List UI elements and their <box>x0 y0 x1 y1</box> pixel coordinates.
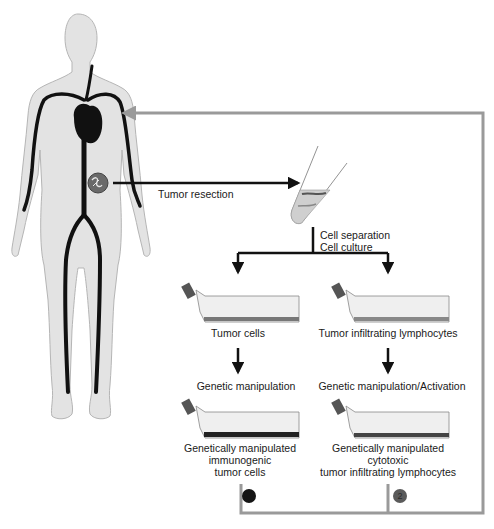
cell-separation-label: Cell separation <box>320 229 390 241</box>
right-result-line1: Genetically manipulated <box>332 442 444 454</box>
til-label: Tumor infiltrating lymphocytes <box>318 327 457 339</box>
right-result-line3: tumor infiltrating lymphocytes <box>320 466 456 478</box>
step-badge-2: 2 <box>393 489 407 503</box>
tumor-resection-label: Tumor resection <box>158 188 233 200</box>
genetic-manipulation-activation-label: Genetic manipulation/Activation <box>318 380 465 392</box>
right-result-line2: cytotoxic <box>368 454 409 466</box>
left-result-line3: tumor cells <box>215 466 266 478</box>
cell-culture-label: Cell culture <box>320 241 373 253</box>
culture-flask-icon <box>331 282 449 322</box>
test-tube-icon <box>291 146 347 224</box>
culture-flask-icon <box>331 398 449 438</box>
tumor-icon <box>88 173 108 193</box>
genetic-manipulation-label: Genetic manipulation <box>197 380 296 392</box>
left-result-line2: immunogenic <box>209 454 271 466</box>
culture-flask-icon <box>181 398 299 438</box>
tumor-cells-label: Tumor cells <box>211 327 265 339</box>
culture-flask-icon <box>181 282 299 322</box>
left-result-line1: Genetically manipulated <box>184 442 296 454</box>
step-badge-1: 1 <box>242 489 256 503</box>
